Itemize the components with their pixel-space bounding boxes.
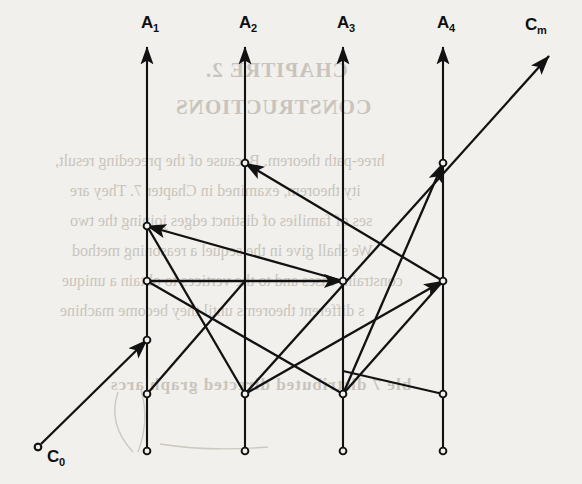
vertex-A2-451 (242, 448, 249, 455)
axes-group (147, 47, 443, 451)
sink-label-letter: C (525, 15, 537, 34)
axis-label-subscript: 2 (251, 22, 257, 34)
vertex-C0 (35, 444, 41, 450)
edge-e-long-cm (245, 56, 549, 394)
vertex-A2-394 (242, 391, 249, 398)
edge-e-a2-a1-low (147, 281, 245, 394)
axis-label-A2: A2 (239, 13, 257, 34)
vertex-A1-451 (144, 448, 151, 455)
vertex-A3-451 (340, 448, 347, 455)
axis-label-subscript: 4 (449, 22, 456, 34)
axis-label-A3: A3 (337, 13, 355, 34)
vertex-A3-281 (340, 278, 347, 285)
axis-labels-group: A1A2A3A4C0Cm (35, 13, 547, 468)
axis-label-A1: A1 (141, 13, 159, 34)
vertices-group (35, 160, 447, 455)
vertex-A1-394 (144, 391, 151, 398)
vertex-A4-163 (440, 160, 447, 167)
edge-e-a4-a3-down (343, 281, 443, 394)
edge-e-c0-a1 (41, 340, 147, 444)
vertex-A1-281 (144, 278, 151, 285)
source-node-C0: C0 (35, 444, 65, 468)
source-label-letter: C (47, 447, 59, 466)
axis-label-subscript: 1 (153, 22, 159, 34)
vertex-A1-340 (144, 337, 151, 344)
edges-group (41, 56, 549, 444)
axis-label-letter: A (337, 13, 349, 32)
vertex-A1-226 (144, 223, 151, 230)
edge-e-a3-a4-up (343, 163, 443, 394)
edge-e-a4-a4-bottom (343, 371, 443, 394)
source-label-subscript: 0 (59, 456, 65, 468)
axis-label-letter: A (239, 13, 251, 32)
axis-label-A4: A4 (437, 13, 456, 34)
directed-graph-canvas: A1A2A3A4C0Cm (0, 0, 582, 484)
vertex-A3-394 (340, 391, 347, 398)
vertex-A4-281 (440, 278, 447, 285)
axis-label-letter: A (141, 13, 153, 32)
sink-node-Cm: Cm (525, 15, 547, 36)
vertex-A4-394 (440, 391, 447, 398)
figure-root: CHAPITRE 2.CONSTRUCTIONShree-path theore… (0, 0, 582, 484)
vertex-A4-451 (440, 448, 447, 455)
vertex-A2-163 (242, 160, 249, 167)
axis-label-subscript: 3 (349, 22, 355, 34)
edge-e-a1-a2-down (147, 226, 245, 394)
sink-label-subscript: m (537, 24, 547, 36)
axis-label-letter: A (437, 13, 449, 32)
